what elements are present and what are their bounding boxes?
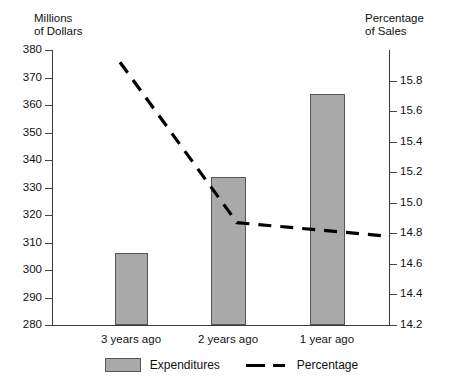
left-axis-line bbox=[52, 50, 53, 326]
page-bleed-text bbox=[0, 0, 463, 7]
right-tick-label: 15.6 bbox=[400, 105, 440, 117]
left-tick-mark bbox=[45, 270, 52, 271]
left-tick-mark bbox=[45, 78, 52, 79]
right-tick-label: 14.8 bbox=[400, 227, 440, 239]
x-category-label: 3 years ago bbox=[81, 333, 181, 345]
left-tick-mark bbox=[45, 243, 52, 244]
left-tick-mark bbox=[45, 298, 52, 299]
legend-label-expenditures: Expenditures bbox=[150, 358, 220, 372]
right-tick-label: 14.2 bbox=[400, 319, 440, 331]
right-tick-label: 14.4 bbox=[400, 288, 440, 300]
right-tick-mark bbox=[390, 142, 397, 143]
left-tick-label: 310 bbox=[8, 237, 42, 249]
right-tick-mark bbox=[390, 203, 397, 204]
right-tick-mark bbox=[390, 81, 397, 82]
right-tick-mark bbox=[390, 233, 397, 234]
legend-item-percentage: Percentage bbox=[246, 358, 358, 372]
left-tick-label: 380 bbox=[8, 44, 42, 56]
chart-legend: Expenditures Percentage bbox=[0, 358, 463, 372]
left-tick-label: 280 bbox=[8, 319, 42, 331]
right-tick-label: 15.2 bbox=[400, 166, 440, 178]
right-tick-mark bbox=[390, 111, 397, 112]
right-tick-label: 14.6 bbox=[400, 258, 440, 270]
left-tick-mark bbox=[45, 133, 52, 134]
right-axis-title: Percentage of Sales bbox=[365, 12, 457, 38]
right-tick-label: 15.0 bbox=[400, 197, 440, 209]
chart-container: Millions of Dollars Percentage of Sales … bbox=[0, 0, 463, 385]
right-tick-mark bbox=[390, 294, 397, 295]
x-axis-line bbox=[52, 325, 391, 326]
left-tick-mark bbox=[45, 105, 52, 106]
legend-dashed-line-icon bbox=[246, 358, 288, 372]
left-tick-mark bbox=[45, 215, 52, 216]
bar bbox=[115, 253, 148, 325]
left-tick-mark bbox=[45, 325, 52, 326]
left-tick-mark bbox=[45, 188, 52, 189]
left-tick-mark bbox=[45, 50, 52, 51]
right-tick-label: 15.8 bbox=[400, 75, 440, 87]
legend-item-expenditures: Expenditures bbox=[105, 358, 220, 372]
legend-bar-swatch-icon bbox=[105, 358, 141, 372]
left-tick-mark bbox=[45, 160, 52, 161]
x-category-label: 2 years ago bbox=[178, 333, 278, 345]
legend-label-percentage: Percentage bbox=[297, 358, 358, 372]
left-tick-label: 370 bbox=[8, 72, 42, 84]
right-tick-label: 15.4 bbox=[400, 136, 440, 148]
right-tick-mark bbox=[390, 264, 397, 265]
left-tick-label: 360 bbox=[8, 99, 42, 111]
bar bbox=[310, 94, 345, 325]
right-tick-mark bbox=[390, 325, 397, 326]
left-tick-label: 300 bbox=[8, 264, 42, 276]
left-tick-label: 340 bbox=[8, 154, 42, 166]
x-category-label: 1 year ago bbox=[277, 333, 377, 345]
right-tick-mark bbox=[390, 172, 397, 173]
right-axis-line bbox=[389, 50, 390, 326]
left-axis-title: Millions of Dollars bbox=[34, 12, 83, 38]
left-tick-label: 320 bbox=[8, 209, 42, 221]
left-tick-label: 290 bbox=[8, 292, 42, 304]
left-tick-label: 350 bbox=[8, 127, 42, 139]
bar bbox=[211, 177, 246, 325]
left-tick-label: 330 bbox=[8, 182, 42, 194]
